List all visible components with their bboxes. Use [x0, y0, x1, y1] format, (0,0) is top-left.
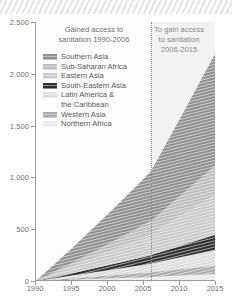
- annotation-togain-line2: to sanitation: [148, 35, 210, 45]
- legend-label-continuation: the Caribbean: [61, 100, 143, 110]
- legend-label: Western Asia: [61, 110, 106, 120]
- y-tick-label: 1.500: [10, 121, 29, 130]
- y-axis: 05001.0001.5002.0002.500: [0, 0, 35, 302]
- x-tick-label: 1990: [27, 284, 44, 293]
- y-tick-label: 1.000: [10, 173, 29, 182]
- y-tick-label: 2.500: [10, 18, 29, 27]
- legend-item[interactable]: Western Asia: [43, 110, 143, 120]
- x-tick-mark: [215, 281, 216, 285]
- legend-label: Southern Asia: [61, 52, 108, 62]
- year-divider-2006: [151, 22, 152, 280]
- annotation-to-gain-access: To gain access to sanitation 2006-2015: [148, 25, 210, 55]
- annotation-gained-line2: sanitation 1990-2006: [48, 35, 140, 45]
- y-tick-label: 2.000: [10, 69, 29, 78]
- x-tick-label: 2000: [99, 284, 116, 293]
- legend-swatch-icon: [43, 121, 57, 127]
- legend-item[interactable]: Southern Asia: [43, 52, 143, 62]
- legend-item[interactable]: Northern Africa: [43, 119, 143, 129]
- x-tick-mark: [107, 281, 108, 285]
- legend-label: Northern Africa: [61, 119, 112, 129]
- legend-label: Sub-Saharan Africa: [61, 62, 127, 72]
- legend-item[interactable]: Sub-Saharan Africa: [43, 62, 143, 72]
- y-tick-label: 500: [16, 225, 29, 234]
- x-tick-mark: [179, 281, 180, 285]
- legend-label: Eastern Asia: [61, 71, 104, 81]
- x-tick-label: 2005: [135, 284, 152, 293]
- chart-canvas: 05001.0001.5002.0002.500 199019952000200…: [0, 0, 232, 302]
- legend-item[interactable]: South-Eastern Asia: [43, 81, 143, 91]
- chart-legend: Southern AsiaSub-Saharan AfricaEastern A…: [43, 52, 143, 129]
- annotation-gained-access: Gained access to sanitation 1990-2006: [48, 25, 140, 45]
- legend-item[interactable]: Eastern Asia: [43, 71, 143, 81]
- legend-swatch-icon: [43, 54, 57, 60]
- legend-swatch-icon: [43, 83, 57, 89]
- x-tick-mark: [35, 281, 36, 285]
- legend-swatch-icon: [43, 73, 57, 79]
- x-tick-mark: [71, 281, 72, 285]
- x-tick-mark: [143, 281, 144, 285]
- legend-swatch-icon: [43, 112, 57, 118]
- legend-swatch-icon: [43, 92, 57, 98]
- annotation-togain-line3: 2006-2015: [148, 45, 210, 55]
- x-tick-label: 2015: [207, 284, 224, 293]
- annotation-togain-line1: To gain access: [148, 25, 210, 35]
- legend-swatch-icon: [43, 64, 57, 70]
- x-tick-label: 1995: [63, 284, 80, 293]
- x-axis: 199019952000200520102015: [0, 284, 232, 298]
- legend-label: South-Eastern Asia: [61, 81, 126, 91]
- annotation-gained-line1: Gained access to: [48, 25, 140, 35]
- x-tick-label: 2010: [171, 284, 188, 293]
- legend-item[interactable]: Latin America &: [43, 90, 143, 100]
- legend-label: Latin America &: [61, 90, 114, 100]
